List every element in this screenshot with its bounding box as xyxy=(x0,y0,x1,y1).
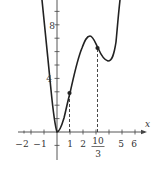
function-graph: x −2 −1 1 2 10 3 5 6 4 8 xyxy=(0,0,158,171)
x-tick-label-10-3-denominator: 3 xyxy=(95,149,101,159)
function-curve xyxy=(42,0,120,132)
x-axis-arrow-icon xyxy=(141,130,147,134)
point-at-x10-3 xyxy=(95,46,99,50)
x-tick-label-10-3-numerator: 10 xyxy=(92,136,104,146)
x-tick-label-2: 2 xyxy=(80,139,86,149)
x-axis-label: x xyxy=(145,119,150,129)
x-tick-label-neg2: −2 xyxy=(15,139,28,149)
x-tick-label-neg1: −1 xyxy=(33,139,46,149)
x-tick-label-1: 1 xyxy=(67,139,73,149)
y-tick-label-8: 8 xyxy=(49,21,55,31)
x-tick-label-6: 6 xyxy=(131,139,137,149)
x-tick-label-5: 5 xyxy=(118,139,124,149)
y-tick-label-4: 4 xyxy=(46,74,52,84)
point-at-x1 xyxy=(67,91,71,95)
